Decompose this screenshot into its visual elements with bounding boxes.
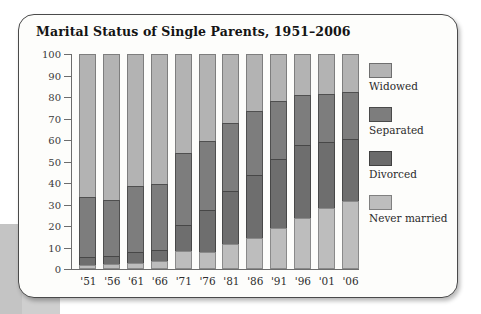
bar-segment-widowed[interactable] — [294, 54, 311, 95]
bar-66[interactable] — [151, 54, 168, 269]
bar-segment-separated[interactable] — [294, 95, 311, 146]
y-tick-label: 70 — [19, 113, 61, 124]
legend-item-never-married[interactable]: Never married — [369, 195, 455, 239]
bar-segment-separated[interactable] — [246, 111, 263, 176]
plot-area — [71, 54, 357, 269]
y-tick-mark — [64, 76, 71, 77]
bar-segment-separated[interactable] — [270, 101, 287, 159]
legend-label: Separated — [369, 124, 424, 136]
chart-legend: WidowedSeparatedDivorcedNever married — [369, 63, 455, 239]
bar-segment-divorced[interactable] — [79, 257, 96, 265]
legend-swatch-widowed — [369, 63, 392, 78]
bar-segment-never-married[interactable] — [199, 252, 216, 269]
bar-71[interactable] — [175, 54, 192, 269]
legend-swatch-separated — [369, 107, 392, 122]
bar-segment-divorced[interactable] — [270, 159, 287, 228]
bar-segment-separated[interactable] — [222, 123, 239, 191]
bar-76[interactable] — [199, 54, 216, 269]
bar-segment-separated[interactable] — [79, 197, 96, 257]
bar-segment-divorced[interactable] — [127, 252, 144, 263]
bar-segment-never-married[interactable] — [151, 261, 168, 269]
legend-item-separated[interactable]: Separated — [369, 107, 455, 151]
y-tick-mark — [64, 183, 71, 184]
bar-segment-never-married[interactable] — [222, 244, 239, 269]
bar-segment-never-married[interactable] — [175, 251, 192, 269]
bar-segment-widowed[interactable] — [151, 54, 168, 184]
bar-86[interactable] — [246, 54, 263, 269]
bar-segment-separated[interactable] — [342, 92, 359, 139]
y-tick-mark — [64, 269, 71, 270]
bar-segment-widowed[interactable] — [246, 54, 263, 111]
bar-segment-never-married[interactable] — [270, 228, 287, 269]
legend-swatch-divorced — [369, 151, 392, 166]
y-tick-mark — [64, 97, 71, 98]
x-tick-label: '06 — [336, 275, 366, 287]
figure-card: Marital Status of Single Parents, 1951–2… — [18, 14, 458, 298]
legend-item-divorced[interactable]: Divorced — [369, 151, 455, 195]
y-tick-label: 30 — [19, 199, 61, 210]
bar-segment-divorced[interactable] — [222, 191, 239, 245]
bar-segment-widowed[interactable] — [127, 54, 144, 186]
bar-segment-divorced[interactable] — [246, 175, 263, 237]
bar-61[interactable] — [127, 54, 144, 269]
bar-segment-widowed[interactable] — [103, 54, 120, 200]
y-tick-mark — [64, 226, 71, 227]
bar-segment-divorced[interactable] — [103, 256, 120, 264]
y-tick-label: 50 — [19, 156, 61, 167]
y-tick-mark — [64, 205, 71, 206]
bar-segment-widowed[interactable] — [270, 54, 287, 101]
y-tick-mark — [64, 119, 71, 120]
bar-segment-widowed[interactable] — [175, 54, 192, 153]
bar-51[interactable] — [79, 54, 96, 269]
bar-segment-separated[interactable] — [151, 184, 168, 250]
legend-label: Divorced — [369, 168, 417, 180]
legend-label: Never married — [369, 212, 447, 224]
bar-81[interactable] — [222, 54, 239, 269]
bar-segment-separated[interactable] — [127, 186, 144, 252]
y-tick-label: 80 — [19, 92, 61, 103]
y-tick-mark — [64, 140, 71, 141]
bar-segment-separated[interactable] — [175, 153, 192, 225]
bar-01[interactable] — [318, 54, 335, 269]
y-tick-label: 60 — [19, 135, 61, 146]
bar-segment-never-married[interactable] — [79, 265, 96, 269]
bar-segment-never-married[interactable] — [294, 218, 311, 269]
bar-segment-widowed[interactable] — [222, 54, 239, 123]
bar-56[interactable] — [103, 54, 120, 269]
bar-96[interactable] — [294, 54, 311, 269]
bar-segment-separated[interactable] — [318, 94, 335, 142]
y-tick-label: 40 — [19, 178, 61, 189]
bar-segment-never-married[interactable] — [246, 238, 263, 269]
y-tick-label: 90 — [19, 70, 61, 81]
bar-segment-divorced[interactable] — [342, 139, 359, 201]
y-tick-label: 20 — [19, 221, 61, 232]
bar-segment-never-married[interactable] — [318, 208, 335, 269]
bar-segment-widowed[interactable] — [199, 54, 216, 141]
y-tick-label: 100 — [19, 49, 61, 60]
legend-item-widowed[interactable]: Widowed — [369, 63, 455, 107]
legend-label: Widowed — [369, 80, 418, 92]
bar-06[interactable] — [342, 54, 359, 269]
y-tick-label: 10 — [19, 242, 61, 253]
bar-segment-separated[interactable] — [103, 200, 120, 256]
bar-segment-widowed[interactable] — [342, 54, 359, 92]
bar-segment-never-married[interactable] — [127, 263, 144, 269]
chart-title: Marital Status of Single Parents, 1951–2… — [36, 24, 351, 39]
bar-segment-never-married[interactable] — [342, 201, 359, 269]
bar-91[interactable] — [270, 54, 287, 269]
bar-segment-divorced[interactable] — [318, 142, 335, 208]
bar-segment-widowed[interactable] — [318, 54, 335, 94]
y-tick-mark — [64, 54, 71, 55]
bar-segment-widowed[interactable] — [79, 54, 96, 197]
bar-segment-never-married[interactable] — [103, 264, 120, 269]
bar-segment-separated[interactable] — [199, 141, 216, 210]
bar-segment-divorced[interactable] — [294, 145, 311, 218]
y-tick-label: 0 — [19, 264, 61, 275]
y-tick-mark — [64, 162, 71, 163]
bar-segment-divorced[interactable] — [151, 250, 168, 262]
bar-segment-divorced[interactable] — [199, 210, 216, 252]
bar-segment-divorced[interactable] — [175, 225, 192, 251]
y-tick-mark — [64, 248, 71, 249]
x-axis-line — [71, 269, 359, 270]
legend-swatch-nevermarried — [369, 195, 392, 210]
